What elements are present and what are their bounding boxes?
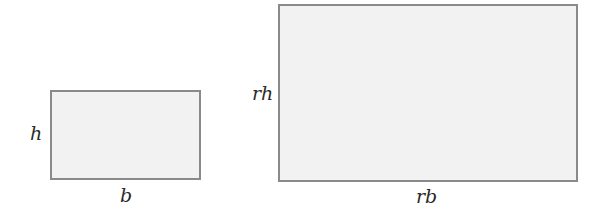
small-rectangle-height-label: h [30,124,42,143]
small-rectangle-base-label: b [120,186,132,205]
large-rectangle-height-label: rh [252,84,273,103]
small-rectangle [50,90,201,180]
large-rectangle-base-label: rb [416,187,437,206]
large-rectangle [278,4,578,182]
